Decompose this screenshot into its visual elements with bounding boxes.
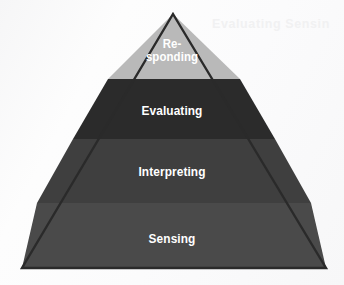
- pyramid-tier-interpreting: [37, 139, 311, 203]
- pyramid-figure: Evaluating Sensin Re- sponding Evaluatin…: [0, 0, 344, 285]
- pyramid-tier-responding: [108, 14, 240, 79]
- pyramid-tier-sensing: [22, 203, 326, 268]
- pyramid-diagram: [0, 0, 344, 285]
